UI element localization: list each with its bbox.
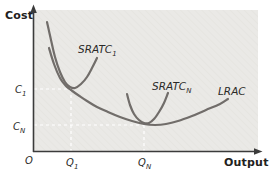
lrac-curve-label: LRAC [218, 85, 246, 97]
c1-tick-label: C1 [15, 84, 26, 98]
qn-tick-label: QN [138, 157, 152, 171]
x-axis-arrowhead-icon [254, 148, 263, 155]
cn-tick-label: CN [13, 121, 26, 135]
q1-tick-label: Q1 [66, 157, 78, 171]
lrac-sratc-cost-curve-chart: Cost Output C1 CN O Q1 QN SRATC1 SRATCN … [0, 0, 275, 179]
x-axis-title: Output [224, 156, 269, 169]
origin-label: O [25, 155, 33, 166]
plot-area [34, 10, 258, 151]
y-axis-title: Cost [5, 9, 33, 22]
